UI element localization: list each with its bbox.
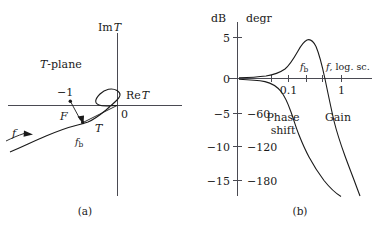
panel-a-frequency-label: f [11, 127, 18, 140]
panel-a-t-vector-label: T [95, 122, 104, 135]
panel-a-imaginary-axis-label: ImT [98, 21, 123, 34]
panel-a: ImT T-plane −1 ReT 0 F T f fb (a) [6, 21, 182, 217]
panel-a-f-vector-label: F [59, 110, 68, 123]
figure-container: ImT T-plane −1 ReT 0 F T f fb (a) [0, 0, 377, 233]
panel-b-yticklabel-minus5: −5 [214, 108, 230, 121]
panel-b-yticklabel-minus120: −120 [247, 141, 277, 154]
panel-a-real-axis-label: ReT [126, 89, 151, 102]
figure-svg: ImT T-plane −1 ReT 0 F T f fb (a) [0, 0, 377, 233]
panel-b-xticklabel-0p1: 0.1 [280, 84, 298, 97]
panel-b-gain-label: Gain [325, 111, 351, 124]
panel-b-right-unit-label: degr [246, 12, 273, 25]
panel-b-yticklabel-minus15: −15 [207, 175, 230, 188]
panel-b-yticklabel-minus180: −180 [247, 175, 277, 188]
panel-a-direction-arrow-icon [24, 131, 33, 137]
panel-a-breakpoint-label: fb [74, 136, 84, 149]
panel-b-phase-label-line2: shift [271, 124, 296, 137]
panel-b-breakpoint-label: fb [299, 61, 309, 74]
panel-a-critical-point-label: −1 [57, 86, 73, 99]
panel-b-left-unit-label: dB [211, 12, 226, 25]
panel-b-yticklabel-minus10: −10 [207, 141, 230, 154]
panel-a-breakpoint-marker [81, 121, 84, 124]
panel-b-yticklabel-0: 0 [223, 73, 230, 86]
panel-a-t-vector [83, 106, 117, 123]
panel-b-xticklabel-1: 1 [338, 84, 345, 97]
panel-b: dB degr 5 0 −5 −10 −15 −60 −120 −180 0.1… [207, 12, 372, 217]
panel-b-x-axis-label: f, log. sc. [325, 61, 370, 72]
panel-a-plane-label: T-plane [40, 58, 82, 71]
panel-a-origin-label: 0 [121, 108, 128, 121]
panel-a-caption: (a) [78, 205, 92, 217]
panel-b-yticklabel-5: 5 [223, 32, 230, 45]
panel-b-phase-label-line1: Phase [266, 111, 299, 124]
panel-a-critical-point-marker [69, 100, 72, 103]
panel-b-caption: (b) [293, 205, 308, 217]
